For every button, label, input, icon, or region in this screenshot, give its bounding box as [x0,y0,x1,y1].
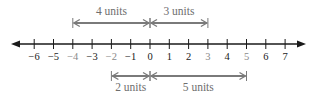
left-arrow-icon [11,41,20,48]
tick-label: 1 [167,51,172,62]
tick-label: 5 [244,51,249,62]
tick-labels: −6−5−4−3−2−101234567 [29,51,288,62]
tick-label: 3 [205,51,210,62]
tick-label: 6 [263,51,268,62]
tick-label: 7 [282,51,287,62]
distance-4-units-above: 4 units [73,5,150,28]
tick-label: −3 [87,51,98,62]
distance-label: 2 units [115,81,147,93]
distance-label: 4 units [96,5,128,17]
distance-label: 5 units [183,81,215,93]
tick-label: −4 [67,51,79,62]
distance-label: 3 units [163,5,195,17]
tick-label: −5 [48,51,59,62]
tick-label: −2 [106,51,117,62]
right-arrow-icon [297,41,306,48]
number-line-axis [11,41,306,48]
distance-5-units-below: 5 units [150,71,247,93]
tick-label: 2 [186,51,191,62]
number-line-diagram: −6−5−4−3−2−101234567 4 units3 units2 uni… [0,0,317,99]
distance-annotations: 4 units3 units2 units5 units [73,5,247,93]
tick-label: 4 [225,51,231,62]
tick-label: −1 [125,51,136,62]
tick-label: −6 [29,51,40,62]
distance-3-units-above: 3 units [150,5,208,28]
tick-label: 0 [147,51,152,62]
distance-2-units-below: 2 units [111,71,150,93]
